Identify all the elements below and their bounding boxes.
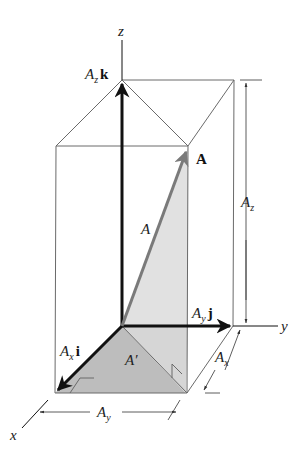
y-component-label: Ayj <box>191 305 213 324</box>
vector-A-label: A <box>196 151 207 167</box>
rectangular-components-diagram: z y x Azk Ayj Axi A A A′ Az Ax Ay <box>0 0 301 453</box>
projection-A-prime-label: A′ <box>124 352 138 368</box>
x-component-label: Axi <box>59 343 80 362</box>
dimension-Ax-label: Ax <box>214 349 229 368</box>
x-axis-label: x <box>9 427 17 443</box>
magnitude-A-label: A <box>140 221 151 237</box>
dimension-Az-label: Az <box>240 194 254 213</box>
z-axis-label: z <box>117 23 124 39</box>
y-axis-label: y <box>279 318 288 334</box>
z-component-label: Azk <box>84 66 109 85</box>
